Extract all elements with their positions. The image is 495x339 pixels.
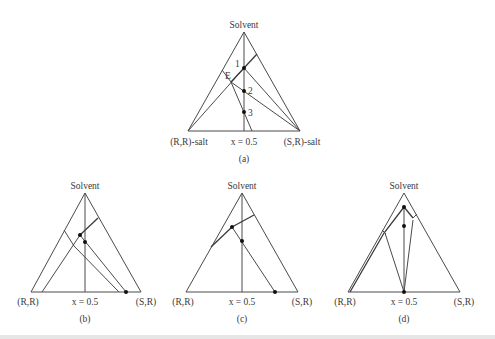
tie-line bbox=[232, 227, 275, 292]
solubility-curve-left bbox=[64, 230, 74, 246]
panel-c: Solvent (R,R) x = 0.5 (S,R) (c) bbox=[172, 181, 312, 325]
mid-label: x = 0.5 bbox=[72, 297, 99, 307]
right-corner-label: (S,R) bbox=[136, 297, 156, 308]
point-3 bbox=[242, 110, 246, 114]
point-composition bbox=[402, 224, 406, 228]
point-base bbox=[124, 290, 128, 294]
point-1 bbox=[242, 66, 246, 70]
solubility-curve-upper bbox=[80, 218, 98, 235]
panel-b: Solvent (R,R) x = 0.5 (S,R) (b) bbox=[17, 181, 156, 325]
solubility-curve-right bbox=[404, 207, 413, 218]
right-corner-label: (S,R) bbox=[292, 297, 312, 308]
apex-label: Solvent bbox=[227, 181, 256, 191]
tie-line-left bbox=[42, 235, 80, 292]
tie-tick-right bbox=[413, 214, 417, 218]
point-base bbox=[402, 290, 406, 294]
point-top bbox=[402, 205, 406, 209]
panel-caption: (c) bbox=[237, 314, 248, 325]
point-composition bbox=[83, 240, 87, 244]
panel-a: 1 2 3 E Solvent (R,R)-salt x = 0.5 (S,R)… bbox=[170, 20, 321, 165]
panel-caption: (b) bbox=[79, 314, 90, 325]
tie-line-right bbox=[404, 220, 413, 292]
eutectic-label: E bbox=[225, 71, 231, 81]
left-corner-label: (R,R) bbox=[334, 297, 355, 308]
solubility-curve-left bbox=[350, 207, 404, 292]
point-base bbox=[273, 290, 277, 294]
tie-line-sr-1 bbox=[244, 68, 300, 131]
panel-caption: (d) bbox=[398, 314, 409, 325]
point-composition bbox=[240, 239, 244, 243]
mid-label: x = 0.5 bbox=[229, 297, 256, 307]
e-to-point-1 bbox=[231, 68, 244, 82]
mid-label: x = 0.5 bbox=[391, 297, 418, 307]
cropped-caption-band bbox=[0, 335, 495, 339]
point-2 bbox=[242, 89, 246, 93]
tie-line-left bbox=[385, 233, 404, 292]
left-corner-label: (R,R) bbox=[172, 297, 193, 308]
solubility-curve-right bbox=[232, 215, 254, 227]
point-1-label: 1 bbox=[235, 59, 240, 69]
tie-line-inner bbox=[80, 235, 126, 292]
solubility-curve-upper bbox=[244, 54, 257, 68]
point-eutectic bbox=[230, 225, 234, 229]
point-eutectic bbox=[78, 233, 82, 237]
left-corner-label: (R,R)-salt bbox=[170, 137, 208, 148]
point-2-label: 2 bbox=[248, 86, 253, 96]
point-3-label: 3 bbox=[248, 108, 253, 118]
apex-label: Solvent bbox=[389, 181, 418, 191]
apex-label: Solvent bbox=[70, 181, 99, 191]
panel-caption: (a) bbox=[239, 154, 250, 165]
ternary-phase-diagrams: 1 2 3 E Solvent (R,R)-salt x = 0.5 (S,R)… bbox=[0, 0, 495, 339]
mid-label: x = 0.5 bbox=[231, 137, 258, 147]
panel-d: Solvent (R,R) x = 0.5 (S,R) (d) bbox=[334, 181, 474, 325]
right-corner-label: (S,R)-salt bbox=[284, 137, 321, 148]
tie-line-outer bbox=[74, 246, 119, 292]
right-corner-label: (S,R) bbox=[454, 297, 474, 308]
left-corner-label: (R,R) bbox=[17, 297, 38, 308]
apex-label: Solvent bbox=[229, 20, 258, 30]
